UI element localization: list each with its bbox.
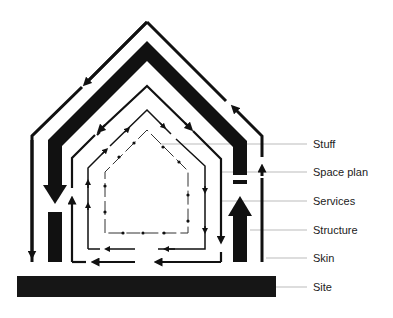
label-space-plan: Space plan xyxy=(313,166,368,178)
label-services: Services xyxy=(313,195,355,207)
label-structure: Structure xyxy=(313,224,358,236)
label-stuff: Stuff xyxy=(313,138,335,150)
stuff-dots xyxy=(103,141,189,234)
label-skin: Skin xyxy=(313,252,334,264)
label-site: Site xyxy=(313,281,332,293)
site-bar xyxy=(17,276,276,297)
stuff-layer xyxy=(105,130,188,233)
shearing-layers-diagram xyxy=(0,0,393,318)
